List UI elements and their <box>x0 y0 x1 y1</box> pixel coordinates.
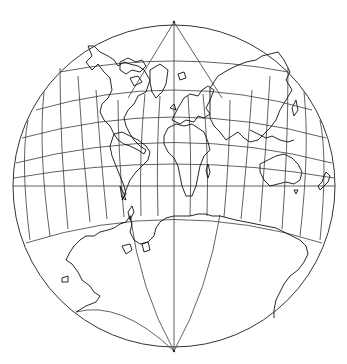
coast-tasmania <box>294 190 298 194</box>
coast-antarctic-island-1 <box>122 244 132 254</box>
map-container: World map in a circle (conformal project… <box>0 0 347 364</box>
meridian-w2 <box>141 94 146 216</box>
meridian-e7 <box>300 92 306 236</box>
coast-africa <box>164 124 210 196</box>
south-pole-marker <box>173 350 175 352</box>
coast-asia <box>210 52 292 142</box>
meridian-from-south-pole-east <box>174 215 220 351</box>
meridian-w7 <box>42 92 50 236</box>
meridian-e6 <box>282 68 288 229</box>
meridian-w3 <box>118 100 124 217</box>
meridian-sw-outer <box>76 310 174 351</box>
meridian-from-south-pole-west <box>130 215 174 351</box>
coast-japan <box>292 100 298 116</box>
coast-svalbard <box>178 72 186 80</box>
coastlines <box>62 46 330 318</box>
meridian-w6 <box>60 68 68 229</box>
coast-antarctic-island-2 <box>142 242 150 252</box>
meridian-w4 <box>96 90 107 219</box>
meridian-e4 <box>241 90 252 219</box>
coast-south-america <box>110 132 150 200</box>
meridians <box>24 22 324 351</box>
meridian-w8 <box>24 120 30 240</box>
north-pole-marker <box>173 21 175 23</box>
coast-madagascar <box>206 164 210 178</box>
meridian-from-north-pole-east <box>174 22 222 98</box>
meridian-w1 <box>157 96 160 216</box>
coast-antarctic-island-3 <box>62 276 68 282</box>
world-map <box>0 0 347 364</box>
meridian-e3 <box>224 100 230 217</box>
meridian-e8 <box>320 120 324 240</box>
coast-greenland <box>150 64 168 98</box>
meridian-e1 <box>188 96 191 216</box>
